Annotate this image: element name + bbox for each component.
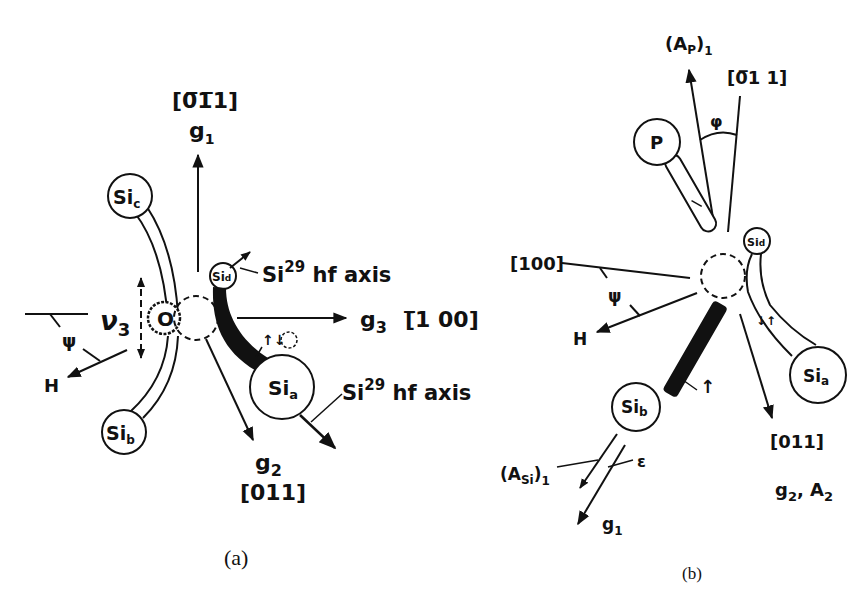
dir-top-label: [0̅1 1]: [727, 67, 787, 88]
dir-100-label: [100]: [510, 253, 564, 274]
si-b-bond-inner: [143, 336, 178, 418]
g2-direction-label: [011]: [240, 480, 306, 505]
panel-b-caption: (b): [682, 564, 702, 583]
h-field-arrow: [68, 350, 127, 377]
asi1-leader: [557, 460, 598, 467]
p-label: P: [650, 132, 663, 153]
epsilon-leader: [608, 460, 633, 467]
p-bond: [662, 152, 719, 234]
figure-canvas: [0̅1̅1] g1 Sic Sib O ν3 ψ: [0, 0, 865, 609]
panel-a: [0̅1̅1] g1 Sic Sib O ν3 ψ: [25, 88, 479, 570]
g1-label: g1: [189, 118, 215, 147]
angle-tick-b1: [600, 268, 607, 278]
angle-tick-2: [83, 349, 100, 361]
h-field-label: H: [44, 375, 59, 396]
oxygen-label: O: [157, 307, 174, 331]
spin-up-label-b: ↑: [700, 376, 715, 397]
si29-hf-axis-top-label: Si29 hf axis: [262, 258, 391, 287]
si29-hf-axis-top-arrow: [230, 252, 250, 268]
si-d-label-b: Sid: [747, 236, 765, 249]
epsilon-label: ε: [637, 452, 646, 471]
g2-a2-label: g2, A2: [775, 479, 833, 504]
si-c-bond-inner: [147, 207, 178, 315]
si29-hf-axis-bottom-label: Si29 hf axis: [342, 376, 471, 405]
si29-hf-axis-bottom-arrow: [300, 415, 335, 448]
si-d-label: Sid: [212, 270, 231, 284]
g1-direction-label: [0̅1̅1]: [172, 88, 238, 113]
nu3-label: ν3: [100, 306, 130, 340]
angle-tick-b2: [630, 305, 640, 316]
h-field-label-b: H: [573, 329, 587, 349]
g3-label: g3: [360, 307, 387, 337]
g2-label: g2: [255, 450, 282, 480]
ap1-label: (AP)1: [665, 33, 713, 58]
dir-100-line: [562, 263, 690, 278]
phi-label: φ: [710, 112, 723, 131]
spin-pair-label-b: ↓↑: [756, 314, 776, 328]
g3-direction-label: [̅1 00]: [404, 307, 479, 332]
panel-b: (AP)1 [0̅1 1] φ P [100] ψ H Sid ↓↑: [500, 33, 846, 583]
si29-hf-leader-bottom: [311, 394, 342, 422]
angle-tick-1: [50, 314, 60, 327]
asi1-axis-arrow: [580, 434, 617, 488]
si-b-bond: [130, 336, 168, 412]
dir-011-arrow: [740, 314, 772, 418]
panel-a-caption: (a): [224, 545, 248, 570]
dir-011-label: [011]: [770, 431, 824, 452]
asi1-label: (ASi)1: [500, 464, 550, 488]
dir-0-1-1-line: [728, 96, 740, 232]
psi-label-b: ψ: [608, 286, 622, 306]
si-b-dangling-bond: [662, 300, 728, 398]
vacancy-site-b: [701, 254, 745, 298]
spin-pair-label: ↑↓: [262, 332, 285, 348]
g1-label-b: g1: [602, 514, 623, 538]
phi-angle-arc: [700, 132, 737, 140]
psi-label: ψ: [62, 330, 76, 351]
broken-bond-si-d-si-a: [213, 287, 268, 372]
si29-hf-leader-top: [240, 268, 258, 273]
